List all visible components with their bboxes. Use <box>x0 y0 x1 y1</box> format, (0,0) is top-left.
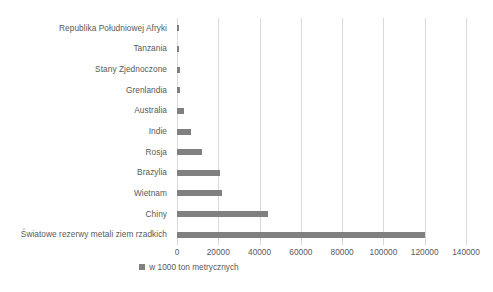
category-label-row: Światowe rezerwy metali ziem rzadkich <box>0 224 172 245</box>
bar <box>177 149 202 155</box>
category-axis-labels: Republika Południowej AfrykiTanzaniaStan… <box>0 18 172 245</box>
bar-row <box>177 101 466 122</box>
category-label: Światowe rezerwy metali ziem rzadkich <box>21 230 167 239</box>
x-axis-tick-label: 140000 <box>452 247 480 257</box>
category-label-row: Brazylia <box>0 162 172 183</box>
legend-label: w 1000 ton metrycznych <box>149 262 238 272</box>
category-label-row: Indie <box>0 121 172 142</box>
bar <box>177 170 220 176</box>
category-label: Wietnam <box>134 189 167 198</box>
category-label-row: Australia <box>0 101 172 122</box>
bar <box>177 25 179 31</box>
legend-entry: w 1000 ton metrycznych <box>139 262 238 272</box>
category-label-row: Tanzania <box>0 39 172 60</box>
bar-row <box>177 224 466 245</box>
x-axis-tick-label: 80000 <box>331 247 354 257</box>
category-label: Indie <box>149 127 167 136</box>
category-label: Chiny <box>146 210 167 219</box>
bar-row <box>177 18 466 39</box>
x-axis-tick-label: 120000 <box>411 247 439 257</box>
bar-row <box>177 204 466 225</box>
category-label-row: Wietnam <box>0 183 172 204</box>
category-label: Stany Zjednoczone <box>95 65 167 74</box>
category-label: Tanzania <box>133 44 167 53</box>
bar <box>177 46 179 52</box>
category-label: Brazylia <box>137 168 167 177</box>
value-axis-tick-labels: 020000400006000080000100000120000140000 <box>177 247 466 261</box>
x-axis-tick-label: 0 <box>175 247 180 257</box>
legend-square-marker <box>139 264 145 270</box>
category-label-row: Rosja <box>0 142 172 163</box>
category-label: Australia <box>134 106 167 115</box>
rare-earth-reserves-bar-chart: Republika Południowej AfrykiTanzaniaStan… <box>0 0 493 292</box>
bar-row <box>177 80 466 101</box>
x-axis-tick-label: 100000 <box>370 247 398 257</box>
bar-row <box>177 142 466 163</box>
bar <box>177 232 425 238</box>
bar <box>177 87 180 93</box>
category-label-row: Grenlandia <box>0 80 172 101</box>
bar-row <box>177 162 466 183</box>
bar <box>177 129 191 135</box>
bar-row <box>177 121 466 142</box>
bar <box>177 108 184 114</box>
gridline <box>466 18 467 245</box>
category-label-row: Stany Zjednoczone <box>0 59 172 80</box>
bar-row <box>177 59 466 80</box>
category-label-row: Chiny <box>0 204 172 225</box>
category-label: Grenlandia <box>126 86 167 95</box>
bar <box>177 67 180 73</box>
bar <box>177 190 222 196</box>
x-axis-tick-label: 60000 <box>289 247 312 257</box>
chart-plot-wrapper: Republika Południowej AfrykiTanzaniaStan… <box>0 0 493 292</box>
chart-legend: w 1000 ton metrycznych <box>0 262 493 272</box>
category-label: Republika Południowej Afryki <box>59 24 167 33</box>
x-axis-tick-label: 40000 <box>248 247 271 257</box>
category-label-row: Republika Południowej Afryki <box>0 18 172 39</box>
category-label: Rosja <box>146 148 167 157</box>
bar <box>177 211 268 217</box>
bar-row <box>177 39 466 60</box>
plot-area <box>177 18 466 245</box>
bar-row <box>177 183 466 204</box>
x-axis-tick-label: 20000 <box>207 247 230 257</box>
bar-series <box>177 18 466 245</box>
